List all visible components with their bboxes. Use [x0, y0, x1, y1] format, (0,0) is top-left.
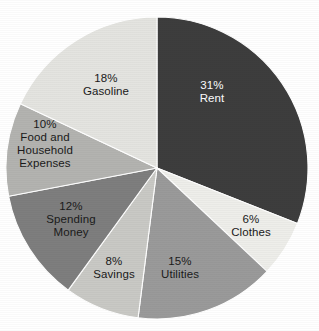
pie-chart-figure: 31%Rent6%Clothes15%Utilities8%Savings12%…	[0, 0, 319, 331]
pie-label-rent: 31%Rent	[200, 79, 225, 104]
pie-chart-svg: 31%Rent6%Clothes15%Utilities8%Savings12%…	[0, 0, 319, 331]
